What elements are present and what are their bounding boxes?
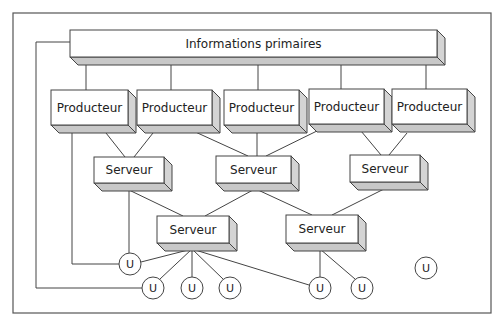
producteur-box-4: Producteur (309, 89, 392, 132)
box-label: Producteur (314, 100, 380, 114)
edge-p1-to-s1 (106, 133, 125, 157)
user-label: U (188, 282, 196, 295)
box-side-face (384, 89, 392, 132)
producteur-box-2: Producteur (137, 90, 220, 133)
box-label: Producteur (57, 101, 123, 115)
edge-p1-to-u1 (72, 133, 119, 264)
producteur-box-1: Producteur (51, 90, 136, 133)
user-node-3: U (181, 277, 203, 299)
user-label: U (316, 282, 324, 295)
box-bottom-face (309, 124, 392, 132)
box-label: Informations primaires (185, 37, 321, 51)
box-label: Producteur (229, 101, 295, 115)
edge-s5-to-u6 (320, 249, 355, 279)
box-label: Serveur (230, 163, 277, 177)
serveur-box-4: Serveur (157, 216, 237, 251)
box-label: Serveur (106, 163, 153, 177)
user-label: U (358, 282, 366, 295)
informations-primaires-box: Informations primaires (70, 30, 445, 65)
producteur-box-3: Producteur (224, 90, 307, 133)
box-bottom-face (70, 57, 445, 65)
user-label: U (126, 258, 134, 271)
box-bottom-face (350, 182, 428, 190)
network-diagram: Informations primairesProducteurProducte… (0, 0, 503, 329)
box-bottom-face (286, 243, 366, 251)
serveur-box-1: Serveur (94, 157, 172, 191)
user-node-4: U (219, 277, 241, 299)
producteur-box-5: Producteur (392, 89, 475, 132)
box-side-face (128, 90, 136, 133)
serveur-box-5: Serveur (286, 215, 366, 251)
edge-s2-to-s5 (258, 190, 312, 215)
box-bottom-face (216, 183, 299, 191)
box-bottom-face (94, 183, 172, 191)
user-nodes: UUUUUUU (119, 253, 437, 299)
edge-s1-to-s4 (129, 190, 183, 216)
user-label: U (226, 282, 234, 295)
edge-s4-to-u5 (192, 249, 309, 285)
edge-p4-to-s3 (361, 131, 381, 155)
box-bottom-face (224, 125, 307, 133)
box-bottom-face (137, 125, 220, 133)
box-label: Serveur (362, 162, 409, 176)
box-bottom-face (392, 124, 475, 132)
edge-p5-to-s3 (389, 133, 407, 155)
box-side-face (467, 89, 475, 132)
user-node-6: U (351, 277, 373, 299)
serveur-box-2: Serveur (216, 156, 299, 191)
box-bottom-face (157, 243, 237, 251)
box-label: Serveur (299, 222, 346, 236)
user-label: U (422, 262, 430, 275)
box-side-face (212, 90, 220, 133)
box-label: Producteur (142, 101, 208, 115)
user-label: U (149, 282, 157, 295)
user-node-1: U (119, 253, 141, 275)
serveur-box-3: Serveur (350, 155, 428, 190)
box-label: Producteur (397, 100, 463, 114)
node-boxes: Informations primairesProducteurProducte… (51, 30, 475, 251)
box-side-face (299, 90, 307, 133)
box-label: Serveur (170, 223, 217, 237)
user-node-2: U (142, 277, 164, 299)
edge-p2-to-s1 (134, 133, 153, 157)
user-node-7: U (415, 257, 437, 279)
edge-p2-to-s2 (191, 130, 248, 156)
box-bottom-face (51, 125, 136, 133)
edge-s3-to-s5 (332, 189, 384, 215)
user-node-5: U (309, 277, 331, 299)
edge-s2-to-s4 (205, 190, 253, 216)
